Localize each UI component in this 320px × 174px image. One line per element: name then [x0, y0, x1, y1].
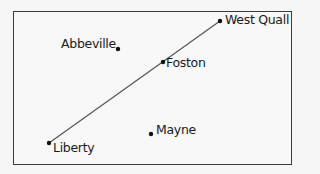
town-label-liberty: Liberty — [53, 142, 94, 155]
town-dot-liberty — [47, 141, 51, 145]
town-dot-foston — [161, 60, 165, 64]
town-dot-west-quall — [218, 19, 222, 23]
town-label-west-quall: West Quall — [225, 14, 289, 27]
town-dot-mayne — [149, 132, 153, 136]
town-label-abbeville: Abbeville — [61, 38, 116, 51]
town-dot-abbeville — [116, 47, 120, 51]
town-label-foston: Foston — [166, 57, 206, 70]
town-label-mayne: Mayne — [156, 124, 196, 137]
